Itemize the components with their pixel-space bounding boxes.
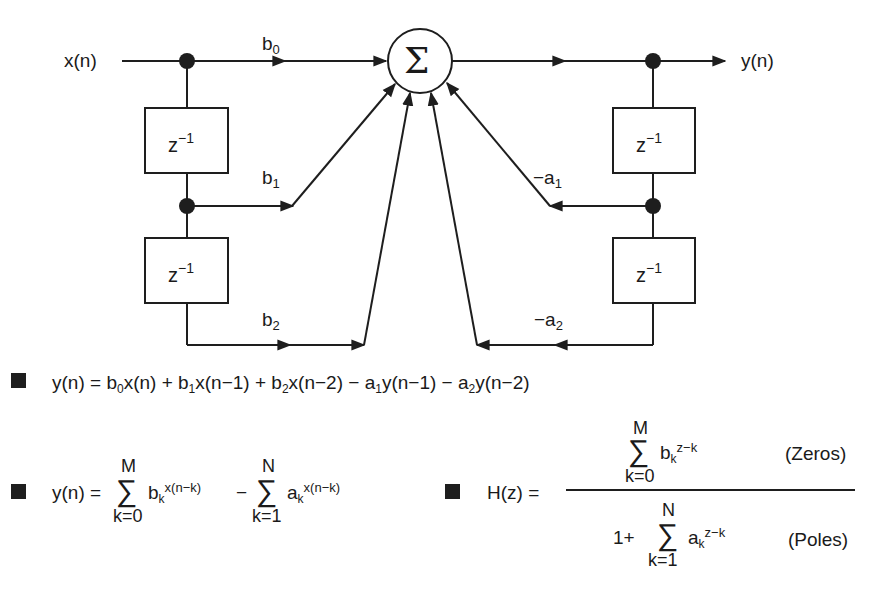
sum1-sigma: ∑ [116, 476, 137, 506]
sum1-upper: M [121, 457, 136, 475]
bullet-difference-eq [11, 373, 26, 388]
coef-b2: b2 [262, 310, 280, 332]
num-sigma: ∑ [628, 436, 649, 466]
sum2-upper: N [262, 457, 275, 475]
sum2-lower: k=1 [252, 507, 282, 525]
delay-label-4: z−1 [636, 261, 662, 285]
node-x-delay1 [179, 198, 195, 214]
delay-label-1: z−1 [168, 131, 194, 155]
sum2-sigma: ∑ [256, 476, 277, 506]
sum-minus: − [236, 483, 247, 502]
den-sigma: ∑ [657, 520, 678, 550]
node-output [645, 53, 661, 69]
transfer-lhs: H(z) = [487, 483, 539, 502]
difference-equation: y(n) = b0x(n) + b1x(n−1) + b2x(n−2) − a1… [52, 373, 530, 395]
den-upper: N [662, 501, 675, 519]
coef-b1: b1 [262, 168, 280, 190]
sum1-lower: k=0 [113, 507, 143, 525]
delay-label-3: z−1 [636, 131, 662, 155]
node-y-delay1 [645, 198, 661, 214]
summer-symbol: Σ [404, 43, 429, 79]
coef-b0: b0 [262, 34, 280, 56]
coef-a2: −a2 [534, 310, 563, 332]
den-lower: k=1 [648, 551, 678, 569]
bullet-summation-eq [11, 484, 26, 499]
sum2-term: akx(n−k) [287, 481, 340, 505]
denominator-term: akz−k [688, 526, 725, 550]
den-prefix: 1+ [613, 528, 635, 547]
bullet-transfer-fn [445, 484, 460, 499]
poles-note: (Poles) [788, 530, 848, 549]
output-label: y(n) [741, 51, 774, 70]
numerator-term: bkz−k [660, 441, 697, 465]
fraction-bar [566, 489, 855, 491]
coef-a1: −a1 [533, 168, 562, 190]
zeros-note: (Zeros) [785, 444, 846, 463]
num-lower: k=0 [625, 467, 655, 485]
node-input [179, 53, 195, 69]
summation-lhs: y(n) = [52, 483, 101, 502]
delay-label-2: z−1 [168, 261, 194, 285]
sum1-term: bkx(n−k) [148, 481, 201, 505]
input-label: x(n) [64, 51, 97, 70]
